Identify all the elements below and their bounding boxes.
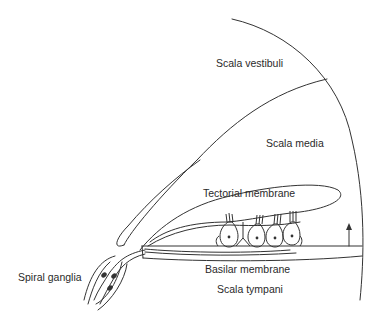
label-tectorial-membrane: Tectorial membrane: [203, 188, 295, 199]
cochlea-diagram: Scala vestibuli Scala media Tectorial me…: [0, 0, 380, 323]
label-basilar-membrane: Basilar membrane: [205, 264, 290, 275]
hair-cell-nucleus: [274, 237, 277, 240]
spiral-limbus: [117, 160, 200, 246]
hair-cell-nucleus: [228, 236, 231, 239]
outer-hair-cell: [266, 214, 283, 247]
hair-cell-nucleus: [256, 237, 259, 240]
basilar-membrane-bottom: [143, 256, 362, 261]
reissners-membrane: [124, 79, 327, 245]
outer-hair-cell: [248, 215, 265, 247]
label-scala-tympani: Scala tympani: [217, 284, 283, 295]
ganglia-sheath: [84, 256, 115, 300]
label-scala-vestibuli: Scala vestibuli: [216, 58, 283, 69]
inner-hair-cell: [220, 213, 238, 247]
outer-hair-cell: [283, 211, 300, 245]
ganglia-sheath: [96, 262, 122, 304]
supporting-cell: [216, 236, 219, 246]
hair-cell-nucleus: [291, 235, 294, 238]
label-scala-media: Scala media: [266, 138, 324, 149]
nerve-fiber: [145, 249, 290, 252]
ganglia-sheath: [88, 262, 110, 304]
basilar-left-end: [142, 246, 143, 258]
label-spiral-ganglia: Spiral ganglia: [18, 272, 82, 283]
arrow-up-icon: [346, 223, 352, 230]
